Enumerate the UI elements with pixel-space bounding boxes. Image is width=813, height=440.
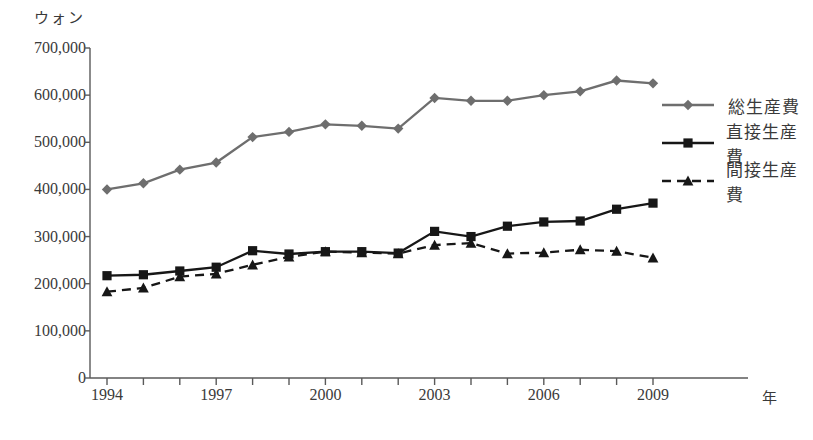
data-point-diamond [102, 184, 112, 194]
legend-key-diamond-icon [660, 97, 716, 113]
data-point-square [102, 271, 111, 280]
data-point-square [576, 216, 585, 225]
data-point-square [539, 217, 548, 226]
data-point-diamond [138, 178, 148, 188]
legend-key-square-icon [660, 135, 714, 151]
data-point-diamond [284, 127, 294, 137]
data-point-diamond [320, 119, 330, 129]
legend-key-triangle-icon [660, 173, 714, 189]
data-point-diamond [575, 86, 585, 96]
series-2 [102, 199, 657, 281]
data-point-square [248, 246, 257, 255]
series-line [107, 203, 653, 276]
data-point-triangle [648, 252, 659, 262]
data-point-square [430, 227, 439, 236]
data-point-diamond [539, 90, 549, 100]
series-line [107, 81, 653, 190]
series-1 [102, 75, 658, 194]
chart-root: ウォン 年 700,000600,000500,000400,000300,00… [0, 0, 813, 440]
chart-legend: 総生産費直接生産費間接生産費 [660, 86, 813, 200]
data-point-diamond [648, 78, 658, 88]
data-point-diamond [611, 75, 621, 85]
legend-label: 間接生産費 [726, 156, 813, 206]
data-point-square [503, 222, 512, 231]
data-point-diamond [502, 96, 512, 106]
data-point-diamond [357, 121, 367, 131]
data-point-diamond [175, 164, 185, 174]
data-point-diamond [466, 96, 476, 106]
data-point-square [139, 270, 148, 279]
series-line [107, 243, 653, 292]
data-point-square [683, 138, 692, 147]
plot-area [0, 0, 813, 440]
legend-item-3: 間接生産費 [660, 162, 813, 200]
data-point-square [648, 199, 657, 208]
legend-label: 総生産費 [728, 93, 800, 118]
data-point-square [612, 205, 621, 214]
data-point-diamond [683, 100, 693, 110]
series-3 [102, 238, 659, 297]
